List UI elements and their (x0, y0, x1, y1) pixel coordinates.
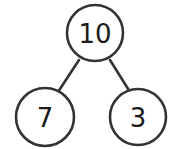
number-bond-diagram: 10 7 3 (0, 0, 173, 149)
whole-node: 10 (67, 5, 123, 61)
part-value-left: 7 (37, 103, 54, 133)
part-node-right: 3 (110, 89, 166, 145)
number-bond-canvas: 10 7 3 (0, 0, 173, 149)
whole-value: 10 (78, 19, 111, 49)
bond-line-left (58, 60, 79, 92)
bond-line-right (110, 60, 130, 92)
part-value-right: 3 (130, 103, 147, 133)
part-node-left: 7 (16, 88, 74, 146)
